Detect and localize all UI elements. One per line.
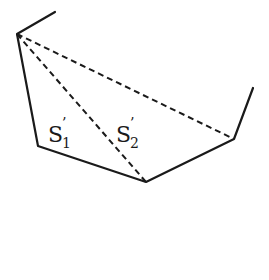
svg-text:’: ’: [62, 115, 66, 131]
label-s2-prime: S 2 ’: [116, 115, 139, 151]
label-s1-prime: S 1 ’: [48, 115, 71, 151]
svg-text:1: 1: [62, 135, 71, 151]
svg-text:’: ’: [130, 115, 134, 131]
polygon-diagram: S 1 ’ S 2 ’: [0, 0, 269, 280]
svg-text:S: S: [48, 122, 63, 147]
polygon-outline: [17, 12, 253, 182]
svg-text:2: 2: [130, 135, 139, 151]
svg-text:S: S: [116, 122, 131, 147]
